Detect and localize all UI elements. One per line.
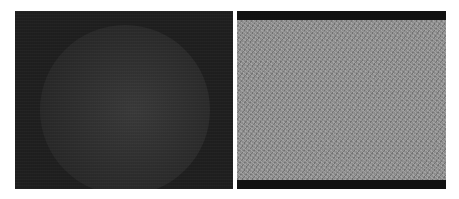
top-black-bar bbox=[237, 11, 446, 20]
right-image-panel bbox=[237, 11, 446, 189]
left-image-panel bbox=[15, 11, 233, 189]
noise-overlay bbox=[15, 11, 233, 189]
noise-texture bbox=[237, 11, 446, 189]
bottom-black-bar bbox=[237, 180, 446, 189]
